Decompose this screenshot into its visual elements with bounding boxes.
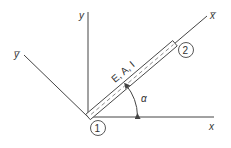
angle-arc-icon bbox=[126, 85, 138, 116]
local-y-axis bbox=[24, 55, 88, 117]
y-axis-label: y bbox=[78, 10, 85, 21]
angle-label: α bbox=[141, 93, 147, 104]
x-axis-label: x bbox=[208, 121, 215, 132]
beam-element bbox=[86, 41, 177, 120]
local-x-axis-label: x̅ bbox=[209, 10, 216, 21]
node-2-label: 2 bbox=[183, 45, 189, 56]
node-1-label: 1 bbox=[95, 123, 101, 134]
beam-element-diagram: y x x̅ y̅ E, A, I α 1 2 bbox=[0, 0, 231, 148]
local-y-axis-label: y̅ bbox=[13, 49, 20, 60]
